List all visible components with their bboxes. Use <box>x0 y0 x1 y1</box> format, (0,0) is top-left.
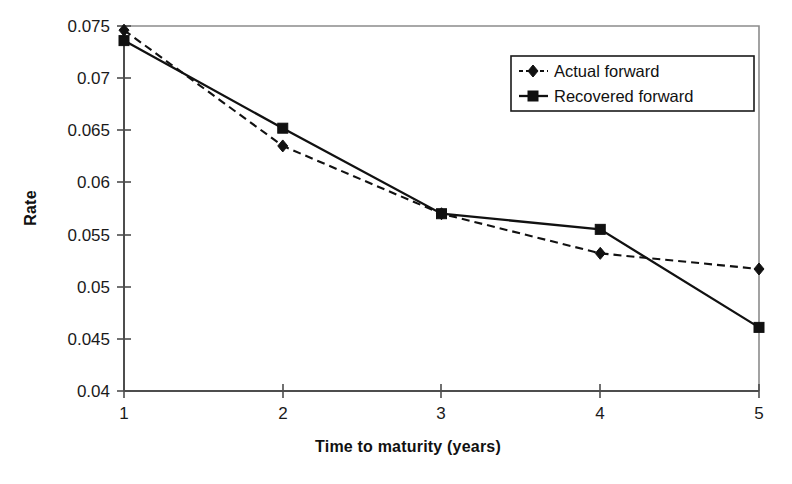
y-axis-title: Rate <box>22 190 39 225</box>
forward-rate-line-chart: 0.075 0.07 0.065 0.06 0.055 0.05 0.045 0… <box>0 0 792 484</box>
x-tick-label-4: 4 <box>595 404 604 423</box>
legend-label-actual-forward: Actual forward <box>554 62 659 80</box>
square-data-marker <box>754 322 764 332</box>
y-tick-label-0065: 0.065 <box>67 121 110 140</box>
x-tick-label-2: 2 <box>278 404 287 423</box>
square-data-marker <box>437 209 447 219</box>
x-axis-title: Time to maturity (years) <box>315 438 501 455</box>
x-tick-label-3: 3 <box>436 404 445 423</box>
y-tick-label-0045: 0.045 <box>67 330 110 349</box>
square-data-marker <box>278 123 288 133</box>
square-marker-icon <box>528 91 538 101</box>
legend-label-recovered-forward: Recovered forward <box>554 87 693 105</box>
y-tick-label-0060: 0.06 <box>77 173 110 192</box>
y-tick-label-0075: 0.075 <box>67 17 110 36</box>
square-data-marker <box>119 36 129 46</box>
y-tick-label-0070: 0.07 <box>77 69 110 88</box>
x-tick-label-5: 5 <box>754 404 763 423</box>
x-tick-label-1: 1 <box>119 404 128 423</box>
chart-figure: 0.075 0.07 0.065 0.06 0.055 0.05 0.045 0… <box>0 0 792 484</box>
y-tick-label-0040: 0.04 <box>77 382 110 401</box>
y-tick-label-0055: 0.055 <box>67 226 110 245</box>
square-data-marker <box>595 224 605 234</box>
y-tick-label-0050: 0.05 <box>77 278 110 297</box>
legend: Actual forward Recovered forward <box>511 56 754 111</box>
